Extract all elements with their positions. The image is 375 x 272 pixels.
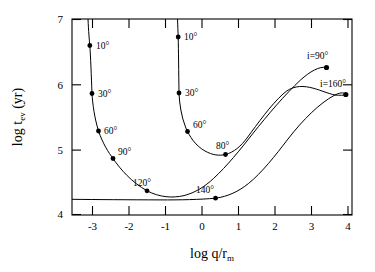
x-tick-label: 0 bbox=[199, 220, 205, 232]
data-point bbox=[213, 196, 218, 201]
y-tick-label: 6 bbox=[58, 79, 64, 91]
x-axis-title-sub: m bbox=[227, 253, 234, 263]
y-tick-label: 4 bbox=[58, 208, 64, 220]
y-tick-label: 5 bbox=[58, 144, 64, 156]
x-tick-label: 2 bbox=[272, 220, 278, 232]
evaporation-time-plot: -3 -2 -1 0 1 2 3 4 7 6 5 4 log q/rm log … bbox=[0, 0, 375, 272]
data-point bbox=[90, 91, 95, 96]
annotation-end-i160: i=160° bbox=[320, 79, 346, 89]
annotation-end-i90: i=90° bbox=[307, 51, 328, 61]
annotation-10deg-i90: 10° bbox=[96, 41, 110, 51]
data-point bbox=[223, 152, 228, 157]
x-axis-title-main: log q/r bbox=[190, 246, 227, 261]
x-tick-label: -1 bbox=[161, 220, 170, 232]
x-tick-label: 4 bbox=[345, 220, 351, 232]
annotation-90deg-i90: 90° bbox=[118, 147, 132, 157]
annotation-60deg-i160: 60° bbox=[193, 120, 207, 130]
data-point bbox=[176, 35, 181, 40]
annotation-10deg-i160: 10° bbox=[184, 32, 198, 42]
annotation-30deg-i90: 30° bbox=[98, 89, 112, 99]
annotation-120deg-i90: 120° bbox=[133, 178, 151, 188]
annotation-80deg-i160: 80° bbox=[216, 141, 230, 151]
data-point bbox=[87, 43, 92, 48]
y-axis-title-pre: log t bbox=[10, 121, 25, 146]
annotation-30deg-i160: 30° bbox=[185, 88, 199, 98]
annotation-60deg-i90: 60° bbox=[104, 126, 118, 136]
annotation-140deg-i160: 140° bbox=[196, 185, 214, 195]
data-point bbox=[111, 156, 116, 161]
data-point bbox=[343, 92, 348, 97]
x-tick-label: -3 bbox=[88, 220, 98, 232]
figure-container: -3 -2 -1 0 1 2 3 4 7 6 5 4 log q/rm log … bbox=[0, 0, 375, 272]
x-tick-label: 1 bbox=[236, 220, 242, 232]
data-point bbox=[177, 91, 182, 96]
data-point bbox=[96, 129, 101, 134]
y-axis-title-post: (yr) bbox=[10, 88, 26, 113]
x-tick-label: -2 bbox=[124, 220, 133, 232]
data-point bbox=[145, 188, 150, 193]
data-point bbox=[324, 65, 329, 70]
x-tick-label: 3 bbox=[309, 220, 315, 232]
data-point bbox=[185, 129, 190, 134]
y-tick-label: 7 bbox=[58, 13, 64, 25]
